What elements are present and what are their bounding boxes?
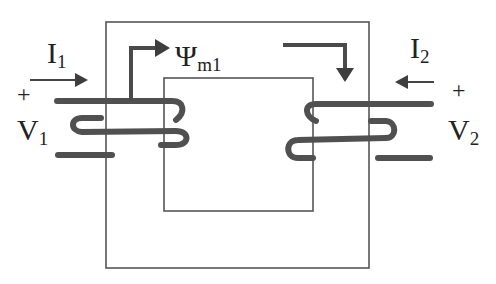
secondary-plus-sign: + (452, 77, 466, 103)
flux-return-arrow-icon (283, 45, 354, 82)
primary-current-label: I1 (47, 36, 67, 72)
secondary-voltage-label: V2 (448, 113, 479, 149)
primary-voltage-label: V1 (17, 113, 48, 149)
secondary-current-arrow-icon (395, 75, 434, 89)
secondary-current-label: I2 (410, 31, 430, 67)
core-outer-boundary (106, 22, 369, 268)
primary-current-arrow-icon (30, 73, 88, 87)
primary-plus-sign: + (17, 81, 31, 107)
primary-winding (57, 101, 187, 155)
secondary-winding (288, 104, 431, 158)
flux-label: Ψm1 (175, 39, 221, 75)
transformer-diagram: I1 Ψm1 I2 + + V1 V2 (0, 0, 496, 284)
